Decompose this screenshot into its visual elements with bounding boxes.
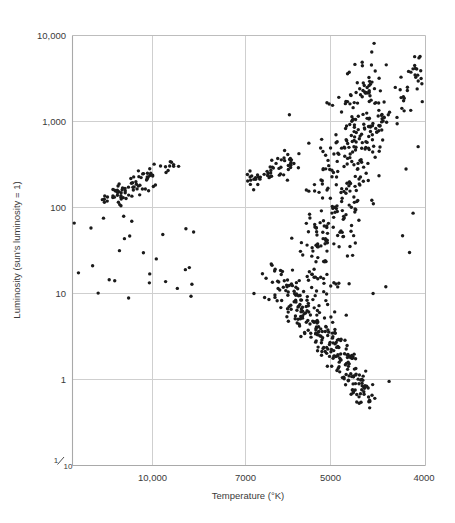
data-point xyxy=(116,189,119,192)
data-point xyxy=(336,170,339,173)
data-point xyxy=(333,310,336,313)
data-point xyxy=(366,162,369,165)
data-point xyxy=(420,82,423,85)
data-point xyxy=(131,186,134,189)
data-point xyxy=(103,194,106,197)
data-point xyxy=(329,196,332,199)
data-point xyxy=(142,251,145,254)
data-point xyxy=(347,374,350,377)
data-point xyxy=(353,367,356,370)
data-point xyxy=(297,152,300,155)
data-point xyxy=(331,335,334,338)
data-point xyxy=(138,193,141,196)
data-point xyxy=(152,162,155,165)
data-point xyxy=(280,273,283,276)
data-point xyxy=(338,231,341,234)
data-point xyxy=(252,188,255,191)
data-point xyxy=(333,211,336,214)
data-point xyxy=(332,354,335,357)
data-point xyxy=(421,100,424,103)
data-point xyxy=(295,309,298,312)
data-point xyxy=(368,398,371,401)
data-point xyxy=(346,142,349,145)
data-point xyxy=(290,282,293,285)
data-point xyxy=(362,393,365,396)
data-point xyxy=(356,101,359,104)
data-point xyxy=(374,69,377,72)
data-point xyxy=(332,349,335,352)
data-point xyxy=(339,337,342,340)
data-point xyxy=(369,130,372,133)
data-point xyxy=(122,215,125,218)
data-point xyxy=(356,81,359,84)
data-point xyxy=(323,316,326,319)
data-point xyxy=(346,368,349,371)
data-point xyxy=(320,350,323,353)
data-point xyxy=(279,306,282,309)
data-point xyxy=(335,175,338,178)
data-point xyxy=(286,307,289,310)
data-point xyxy=(352,234,355,237)
data-point xyxy=(380,120,383,123)
data-point xyxy=(154,183,157,186)
data-point xyxy=(184,268,187,271)
data-point xyxy=(362,123,365,126)
data-point xyxy=(311,298,314,301)
x-tick-4000: 4000 xyxy=(413,472,434,483)
data-point xyxy=(362,81,365,84)
data-point xyxy=(289,162,292,165)
data-point xyxy=(282,286,285,289)
data-point xyxy=(294,294,297,297)
data-point xyxy=(305,299,308,302)
data-point xyxy=(306,319,309,322)
data-point xyxy=(124,189,127,192)
data-point xyxy=(286,178,289,181)
data-point xyxy=(144,187,147,190)
data-point xyxy=(135,183,138,186)
data-point xyxy=(146,176,149,179)
data-point xyxy=(313,294,316,297)
data-point xyxy=(419,69,422,72)
data-point xyxy=(316,309,319,312)
data-point xyxy=(307,230,310,233)
data-point xyxy=(345,162,348,165)
data-point xyxy=(358,373,361,376)
data-point xyxy=(324,325,327,328)
data-point xyxy=(288,113,291,116)
data-point xyxy=(310,286,313,289)
data-point xyxy=(307,279,310,282)
data-point xyxy=(409,70,412,73)
data-point xyxy=(312,276,315,279)
data-point xyxy=(353,185,356,188)
data-point xyxy=(277,167,280,170)
data-point xyxy=(330,211,333,214)
data-point xyxy=(324,350,327,353)
data-point xyxy=(371,133,374,136)
data-point xyxy=(307,302,310,305)
data-point xyxy=(394,86,397,89)
data-point xyxy=(266,174,269,177)
data-point xyxy=(330,169,333,172)
data-point xyxy=(326,232,329,235)
data-point xyxy=(270,264,273,267)
data-point xyxy=(184,227,187,230)
data-point xyxy=(316,277,319,280)
data-point xyxy=(370,80,373,83)
data-point xyxy=(326,365,329,368)
data-point xyxy=(246,179,249,182)
data-point xyxy=(372,145,375,148)
data-point xyxy=(367,76,370,79)
data-point xyxy=(316,256,319,259)
data-point xyxy=(352,163,355,166)
data-point xyxy=(337,96,340,99)
data-point xyxy=(312,268,315,271)
data-point xyxy=(321,330,324,333)
data-point xyxy=(372,42,375,45)
data-point xyxy=(375,130,378,133)
data-point xyxy=(364,91,367,94)
data-point xyxy=(305,222,308,225)
data-point xyxy=(415,67,418,70)
data-point xyxy=(270,159,273,162)
data-point xyxy=(377,77,380,80)
data-point xyxy=(271,280,274,283)
